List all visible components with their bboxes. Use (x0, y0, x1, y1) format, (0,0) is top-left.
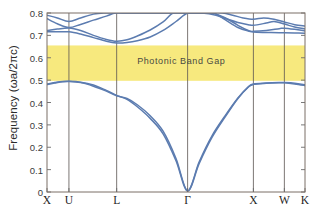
y-tick-label: 0.5 (19, 76, 43, 86)
x-tick-label-k: K (294, 195, 316, 207)
y-tick-marks (47, 13, 305, 192)
y-tick-label: 0.2 (19, 143, 43, 153)
band-structure-figure: Frequency (ωa/2πc) 0.8 0.7 0.6 0.5 0.4 0… (0, 0, 317, 217)
band-curve (47, 13, 305, 26)
y-tick-label: 0.8 (19, 9, 43, 19)
plot-area (0, 0, 317, 217)
x-tick-label-w: W (273, 195, 295, 207)
x-tick-label-x-right: X (242, 195, 264, 207)
y-tick-label: 0.6 (19, 54, 43, 64)
y-tick-label: 0.7 (19, 31, 43, 41)
y-tick-label: 0.1 (19, 166, 43, 176)
x-tick-label-l: L (106, 195, 128, 207)
x-tick-label-x-left: X (36, 195, 58, 207)
axes-frame (47, 13, 305, 192)
y-tick-label: 0.3 (19, 121, 43, 131)
y-tick-label-group: 0.8 0.7 0.6 0.5 0.4 0.3 0.2 0.1 0 (18, 0, 43, 217)
band-curve (47, 81, 305, 191)
band-gap-annotation: Photonic Band Gap (137, 56, 225, 66)
y-tick-label: 0.4 (19, 99, 43, 109)
band-curves (47, 12, 305, 191)
x-tick-label-gamma: Γ (177, 195, 199, 207)
x-tick-label-u: U (58, 195, 80, 207)
x-tick-marks (47, 188, 305, 192)
band-curve (47, 81, 305, 191)
